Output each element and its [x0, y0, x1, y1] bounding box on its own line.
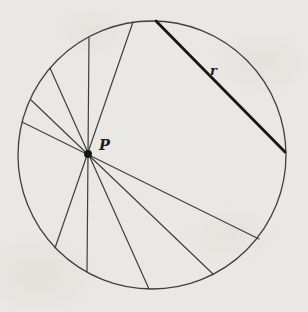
chord-line: [22, 122, 259, 239]
chord-r-label: r: [210, 63, 218, 78]
page-background: Pr: [0, 0, 308, 312]
point-p-label: P: [98, 136, 111, 153]
chord-line: [55, 22, 133, 248]
geometry-figure: Pr: [0, 0, 308, 312]
chord-line: [31, 100, 213, 274]
circle-outline: [18, 21, 286, 289]
chord-line: [50, 68, 149, 289]
thick-chord-r: [156, 21, 285, 152]
point-p-dot: [84, 150, 92, 158]
